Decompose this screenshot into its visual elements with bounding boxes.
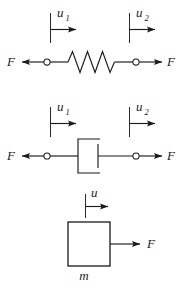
damper-u1-subscript: 1 <box>66 107 70 117</box>
spring-terminal-right-node <box>133 59 139 65</box>
damper-terminal-right-node <box>133 153 139 159</box>
damper-terminal-left-node <box>44 153 50 159</box>
damper-u1-label: u <box>57 99 64 114</box>
spring-element-group: u 1 u 2 F F <box>6 5 176 73</box>
damper-force-right-label: F <box>166 148 176 163</box>
spring-u2-label: u <box>136 5 143 20</box>
spring-u1-subscript: 1 <box>66 13 70 23</box>
spring-force-left-label: F <box>6 54 16 69</box>
damper-cylinder <box>78 139 100 173</box>
mechanical-elements-figure: u 1 u 2 F F <box>0 0 183 292</box>
spring-u1-label: u <box>57 5 64 20</box>
damper-u2-label: u <box>136 99 143 114</box>
spring-coil <box>68 52 115 73</box>
mass-force-label: F <box>146 236 156 251</box>
mass-symbol-label: m <box>79 268 88 283</box>
damper-element-group: u 1 u 2 F <box>6 99 176 173</box>
spring-terminal-left-node <box>44 59 50 65</box>
spring-force-right-label: F <box>166 54 176 69</box>
damper-force-left-label: F <box>6 148 16 163</box>
figure-canvas: u 1 u 2 F F <box>0 0 183 292</box>
mass-u-label: u <box>91 185 98 200</box>
mass-block <box>68 222 110 266</box>
damper-u2-subscript: 2 <box>145 107 150 117</box>
spring-u2-subscript: 2 <box>145 13 150 23</box>
mass-element-group: u F m <box>68 185 156 283</box>
